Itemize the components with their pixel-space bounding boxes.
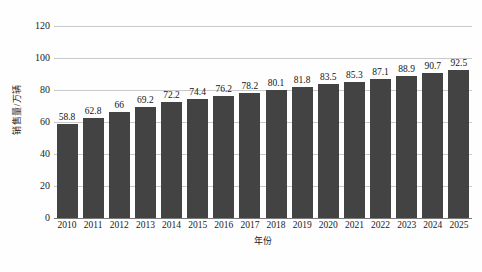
x-axis-title: 年份 [54,234,472,247]
bar-group[interactable]: 85.3 [344,0,365,218]
bar[interactable] [109,112,130,218]
bar-value-label: 87.1 [372,67,389,77]
bar-group[interactable]: 83.5 [318,0,339,218]
bar-group[interactable]: 80.1 [266,0,287,218]
bar-value-label: 92.5 [451,58,468,68]
x-tick-label: 2019 [293,220,312,231]
bar-value-label: 78.2 [242,81,259,91]
bar-group[interactable]: 78.2 [239,0,260,218]
bar-group[interactable]: 90.7 [422,0,443,218]
y-tick-label: 120 [22,21,50,31]
x-tick-label: 2018 [267,220,286,231]
bar-value-label: 74.4 [189,87,206,97]
bar-group[interactable]: 66 [109,0,130,218]
x-axis-tick-labels: 2010201120122013201420152016201720182019… [54,220,472,234]
x-axis-title-text: 年份 [254,236,273,246]
bar[interactable] [370,79,391,218]
bar-group[interactable]: 81.8 [292,0,313,218]
bar[interactable] [318,84,339,218]
bar-value-label: 58.8 [59,112,76,122]
x-tick-label: 2017 [240,220,259,231]
bar-value-label: 85.3 [346,70,363,80]
bar[interactable] [239,93,260,218]
bar-group[interactable]: 76.2 [213,0,234,218]
x-tick-label: 2021 [345,220,364,231]
bar-value-label: 80.1 [268,78,285,88]
y-tick-label: 80 [22,85,50,95]
bar[interactable] [422,73,443,218]
bar[interactable] [266,90,287,218]
x-tick-label: 2023 [397,220,416,231]
bar-value-label: 90.7 [424,61,441,71]
bar-value-label: 83.5 [320,72,337,82]
bar[interactable] [213,96,234,218]
bar-group[interactable]: 58.8 [57,0,78,218]
x-tick-label: 2024 [423,220,442,231]
bar-value-label: 62.8 [85,106,102,116]
bar[interactable] [292,87,313,218]
x-tick-label: 2012 [110,220,129,231]
bar-group[interactable]: 62.8 [83,0,104,218]
bar[interactable] [135,107,156,218]
y-tick-label: 40 [22,149,50,159]
bar-value-label: 72.2 [163,90,180,100]
x-tick-label: 2015 [188,220,207,231]
bar[interactable] [161,102,182,218]
bar[interactable] [396,76,417,218]
bar-group[interactable]: 87.1 [370,0,391,218]
y-tick-label: 60 [22,117,50,127]
x-tick-label: 2011 [84,220,103,231]
y-tick-label: 20 [22,181,50,191]
x-tick-label: 2020 [319,220,338,231]
bar[interactable] [448,70,469,218]
bar-value-label: 81.8 [294,75,311,85]
y-tick-label: 0 [22,213,50,223]
x-tick-label: 2013 [136,220,155,231]
bar-chart: 销售量/万辆 020406080100120 58.862.86669.272.… [0,0,482,272]
bar-group[interactable]: 92.5 [448,0,469,218]
bar-group[interactable]: 88.9 [396,0,417,218]
bar-value-label: 88.9 [398,64,415,74]
bar[interactable] [187,99,208,218]
y-axis-tick-labels: 020406080100120 [16,0,50,272]
x-tick-label: 2022 [371,220,390,231]
x-tick-label: 2025 [449,220,468,231]
y-tick-label: 100 [22,53,50,63]
bar-value-label: 76.2 [215,84,232,94]
bar-value-label: 66 [115,100,125,110]
bar[interactable] [83,118,104,218]
x-tick-label: 2014 [162,220,181,231]
x-tick-label: 2010 [58,220,77,231]
bar-value-label: 69.2 [137,95,154,105]
bar-group[interactable]: 72.2 [161,0,182,218]
x-tick-label: 2016 [214,220,233,231]
bar[interactable] [344,82,365,218]
bar-group[interactable]: 69.2 [135,0,156,218]
bar[interactable] [57,124,78,218]
bar-group[interactable]: 74.4 [187,0,208,218]
